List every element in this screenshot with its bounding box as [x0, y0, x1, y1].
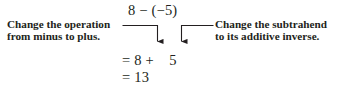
rewritten-expression: = 8 + 5: [122, 52, 177, 69]
annotation-left: Change the operation from minus to plus.: [7, 18, 119, 42]
left-elbow-arrow-icon: [123, 26, 158, 42]
original-expression: 8 − (−5): [128, 2, 177, 19]
annotation-right: Change the subtrahend to its additive in…: [215, 18, 341, 42]
annotation-right-line1: Change the subtrahend: [215, 18, 341, 30]
annotation-left-line1: Change the operation: [7, 18, 119, 30]
result-expression: = 13: [122, 69, 149, 86]
annotation-left-line2: from minus to plus.: [7, 30, 119, 42]
subtraction-to-addition-diagram: 8 − (−5) Change the operation from minus…: [0, 0, 342, 90]
right-elbow-arrow-icon: [182, 26, 214, 42]
annotation-right-line2: to its additive inverse.: [215, 30, 341, 42]
